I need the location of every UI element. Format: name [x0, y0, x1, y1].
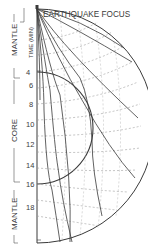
time-tick-labels: 4 6 8 10 12 14 16 18	[26, 68, 34, 212]
focus-marker	[36, 5, 39, 9]
tick-18: 18	[26, 203, 34, 212]
earthquake-focus-label: EARTHQUAKE FOCUS	[43, 10, 131, 19]
tick-14: 14	[26, 161, 34, 170]
tick-6: 6	[29, 81, 33, 90]
time-axis-ticks	[37, 71, 41, 240]
time-axis-label: TIME (MIN)	[28, 27, 34, 58]
tick-4: 4	[26, 68, 30, 77]
layer-label-upper-mantle: MANTLE	[10, 24, 19, 56]
layer-label-lower-mantle: MANTLE	[10, 198, 19, 230]
wavefronts-radial	[60, 14, 121, 240]
tick-12: 12	[26, 140, 34, 149]
tick-16: 16	[26, 180, 34, 189]
seismic-wave-diagram: EARTHQUAKE FOCUS TIME (MIN) MANTLE CORE …	[0, 0, 148, 248]
tick-10: 10	[26, 120, 34, 129]
layer-label-core: CORE	[10, 119, 19, 142]
ray-paths	[37, 9, 138, 242]
tick-8: 8	[29, 100, 33, 109]
